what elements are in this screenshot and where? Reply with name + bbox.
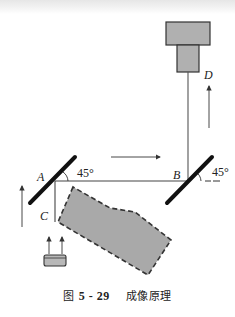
label-a: A xyxy=(37,171,44,183)
label-c: C xyxy=(40,210,48,222)
label-d: D xyxy=(204,69,213,81)
figure-caption: 图 5 - 29 成像原理 xyxy=(0,287,235,304)
caption-title: 成像原理 xyxy=(126,290,172,303)
caption-prefix: 图 xyxy=(63,290,75,303)
caption-number: 5 - 29 xyxy=(79,289,110,303)
camera-icon xyxy=(166,22,210,72)
diagram-canvas xyxy=(0,0,235,317)
object-shape xyxy=(58,187,171,275)
label-angle-a: 45° xyxy=(77,167,94,179)
imaging-principle-diagram: D A 45° B 45° C 图 5 - 29 成像原理 xyxy=(0,0,235,317)
label-b: B xyxy=(173,169,180,181)
light-source-icon xyxy=(44,237,66,266)
label-angle-b: 45° xyxy=(212,166,229,178)
angle-arc-a xyxy=(63,172,68,181)
